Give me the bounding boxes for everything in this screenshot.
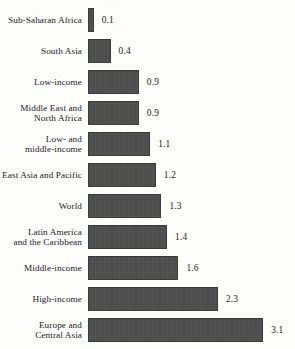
bar-track: 3.1	[88, 318, 295, 342]
bar	[88, 256, 178, 280]
category-label: Europe and Central Asia	[0, 320, 88, 341]
bar-track: 1.4	[88, 225, 295, 249]
category-label: Low- and middle-income	[0, 134, 88, 155]
bar-track: 1.6	[88, 256, 295, 280]
bar-value-label: 1.2	[164, 170, 176, 180]
bar-row: Latin America and the Caribbean1.4	[0, 225, 295, 249]
category-label: Latin America and the Caribbean	[0, 227, 88, 248]
horizontal-bar-chart: Sub-Saharan Africa0.1South Asia0.4Low-in…	[0, 0, 295, 349]
bar-track: 2.3	[88, 287, 295, 311]
bar-row: East Asia and Pacific1.2	[0, 163, 295, 187]
bar-track: 0.9	[88, 101, 295, 125]
bar-value-label: 0.9	[147, 108, 159, 118]
bar-row: Low-income0.9	[0, 70, 295, 94]
bar-track: 1.1	[88, 132, 295, 156]
bar-value-label: 1.6	[186, 263, 198, 273]
bar-track: 1.2	[88, 163, 295, 187]
bar	[88, 225, 167, 249]
bar-row: Middle East and North Africa0.9	[0, 101, 295, 125]
bar-value-label: 1.1	[158, 139, 170, 149]
bar-value-label: 3.1	[271, 325, 283, 335]
bar-value-label: 0.4	[119, 46, 131, 56]
category-label: East Asia and Pacific	[0, 170, 88, 180]
bar-value-label: 2.3	[226, 294, 238, 304]
category-label: Low-income	[0, 77, 88, 87]
bar-row: Low- and middle-income1.1	[0, 132, 295, 156]
bar	[88, 287, 218, 311]
bar-row: Sub-Saharan Africa0.1	[0, 8, 295, 32]
bar	[88, 163, 156, 187]
bar	[88, 132, 150, 156]
bar	[88, 70, 139, 94]
bar-row: World1.3	[0, 194, 295, 218]
bar-track: 1.3	[88, 194, 295, 218]
bar-track: 0.9	[88, 70, 295, 94]
bar-track: 0.1	[88, 8, 295, 32]
bar-value-label: 0.9	[147, 77, 159, 87]
category-label: High-income	[0, 294, 88, 304]
bar	[88, 318, 263, 342]
bar-value-label: 1.3	[169, 201, 181, 211]
bar-value-label: 1.4	[175, 232, 187, 242]
bar	[88, 194, 161, 218]
bar-track: 0.4	[88, 39, 295, 63]
bar-row: High-income2.3	[0, 287, 295, 311]
category-label: Middle-income	[0, 263, 88, 273]
bar	[88, 39, 111, 63]
category-label: Middle East and North Africa	[0, 103, 88, 124]
bar	[88, 101, 139, 125]
bar	[88, 8, 94, 32]
category-label: World	[0, 201, 88, 211]
bar-row: South Asia0.4	[0, 39, 295, 63]
bar-value-label: 0.1	[102, 15, 114, 25]
category-label: South Asia	[0, 46, 88, 56]
bar-row: Middle-income1.6	[0, 256, 295, 280]
bar-row: Europe and Central Asia3.1	[0, 318, 295, 342]
category-label: Sub-Saharan Africa	[0, 15, 88, 25]
